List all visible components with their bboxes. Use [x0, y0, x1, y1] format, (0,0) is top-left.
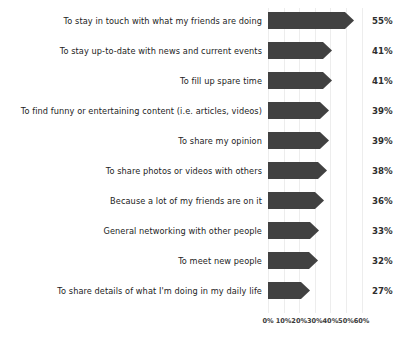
category-label: To meet new people: [178, 256, 262, 266]
category-label: To share details of what I'm doing in my…: [57, 286, 262, 296]
bar: [268, 42, 332, 59]
category-label: To stay up-to-date with news and current…: [60, 46, 262, 56]
bar-value-label: 41%: [372, 76, 393, 86]
x-tick-label: 40%: [322, 317, 338, 325]
category-label: To share photos or videos with others: [106, 166, 262, 176]
bar-row: To share details of what I'm doing in my…: [0, 282, 417, 299]
bar-row: To stay in touch with what my friends ar…: [0, 12, 417, 29]
bar-value-label: 36%: [372, 196, 393, 206]
bar: [268, 222, 319, 239]
x-tick-label: 50%: [338, 317, 354, 325]
bar-value-label: 55%: [372, 16, 393, 26]
x-tick-label: 20%: [291, 317, 307, 325]
bar-row: To find funny or entertaining content (i…: [0, 102, 417, 119]
horizontal-bar-chart: To stay in touch with what my friends ar…: [0, 0, 417, 345]
bar-row: To meet new people32%: [0, 252, 417, 269]
bar: [268, 102, 329, 119]
bar-value-label: 32%: [372, 256, 393, 266]
x-axis-tick-labels: 0%10%20%30%40%50%60%: [268, 317, 378, 329]
bar-row: Because a lot of my friends are on it36%: [0, 192, 417, 209]
bar-value-label: 39%: [372, 136, 393, 146]
plot-area: To stay in touch with what my friends ar…: [0, 0, 417, 345]
bar-shape: [268, 12, 354, 29]
bar-value-label: 27%: [372, 286, 393, 296]
x-tick-label: 60%: [354, 317, 370, 325]
bar-value-label: 39%: [372, 106, 393, 116]
bar-value-label: 41%: [372, 46, 393, 56]
bar-row: To share my opinion39%: [0, 132, 417, 149]
category-label: To fill up spare time: [180, 76, 262, 86]
bar: [268, 72, 332, 89]
bar: [268, 282, 310, 299]
bar-value-label: 38%: [372, 166, 393, 176]
category-label: To find funny or entertaining content (i…: [21, 106, 262, 116]
bar-shape: [268, 102, 329, 119]
bar-value-label: 33%: [372, 226, 393, 236]
category-label: Because a lot of my friends are on it: [110, 196, 262, 206]
bar: [268, 252, 318, 269]
bar-shape: [268, 252, 318, 269]
bar-row: To fill up spare time41%: [0, 72, 417, 89]
x-tick-label: 0%: [262, 317, 273, 325]
x-tick-label: 10%: [276, 317, 292, 325]
bar: [268, 192, 324, 209]
bar: [268, 12, 354, 29]
category-label: To stay in touch with what my friends ar…: [64, 16, 262, 26]
bar-shape: [268, 72, 332, 89]
bar-shape: [268, 42, 332, 59]
bar-row: To stay up-to-date with news and current…: [0, 42, 417, 59]
bar-shape: [268, 192, 324, 209]
bar-shape: [268, 222, 319, 239]
bar: [268, 132, 329, 149]
bar-shape: [268, 282, 310, 299]
bar: [268, 162, 327, 179]
bar-shape: [268, 162, 327, 179]
x-tick-label: 30%: [307, 317, 323, 325]
bar-row: General networking with other people33%: [0, 222, 417, 239]
bar-row: To share photos or videos with others38%: [0, 162, 417, 179]
category-label: To share my opinion: [178, 136, 262, 146]
category-label: General networking with other people: [104, 226, 262, 236]
bar-shape: [268, 132, 329, 149]
